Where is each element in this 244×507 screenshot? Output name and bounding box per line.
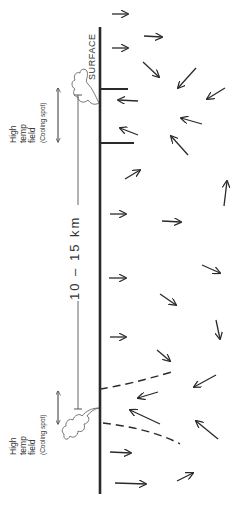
surface-label: SURFACE	[88, 33, 97, 80]
top-field-note: (Cooling spot)	[38, 103, 48, 143]
flow-arrow-icon	[162, 221, 181, 222]
bottom-field-line3: field	[28, 415, 38, 455]
flow-arrow-icon	[143, 62, 159, 77]
flow-arrow-icon	[125, 170, 140, 179]
bottom-field-note: (Cooling spot)	[38, 415, 48, 455]
flow-arrow-icon	[194, 375, 216, 387]
flow-arrow-icon	[115, 483, 146, 484]
flow-arrow-icon	[216, 320, 220, 339]
flow-arrow-icon	[130, 410, 160, 424]
flow-arrows	[109, 14, 227, 484]
cloud-plume-bottom-icon	[62, 408, 99, 439]
flow-arrow-icon	[120, 128, 138, 135]
distance-label: 10 – 15 km	[68, 216, 81, 300]
top-field-label: High temp field (Cooling spot)	[9, 103, 47, 143]
flow-arrow-icon	[224, 181, 227, 206]
flow-arrow-icon	[118, 100, 138, 101]
flow-arrow-icon	[171, 136, 188, 155]
flow-arrow-icon	[160, 294, 176, 305]
dashed-curve	[103, 423, 180, 444]
top-field-line3: field	[28, 103, 38, 143]
flow-arrow-icon	[110, 452, 131, 453]
flow-arrow-icon	[178, 68, 196, 88]
dashed-curve	[100, 371, 175, 389]
flow-arrow-icon	[181, 118, 202, 124]
flow-arrow-icon	[202, 265, 220, 273]
flow-arrow-icon	[144, 36, 162, 37]
flow-arrow-icon	[157, 350, 170, 361]
flow-arrow-icon	[196, 421, 218, 439]
flow-arrow-icon	[177, 473, 193, 481]
dashed-flow-boundaries	[100, 371, 180, 444]
flow-arrow-icon	[207, 88, 225, 99]
bottom-field-label: High temp field (Cooling spot)	[9, 415, 47, 455]
flow-arrow-icon	[138, 392, 158, 398]
